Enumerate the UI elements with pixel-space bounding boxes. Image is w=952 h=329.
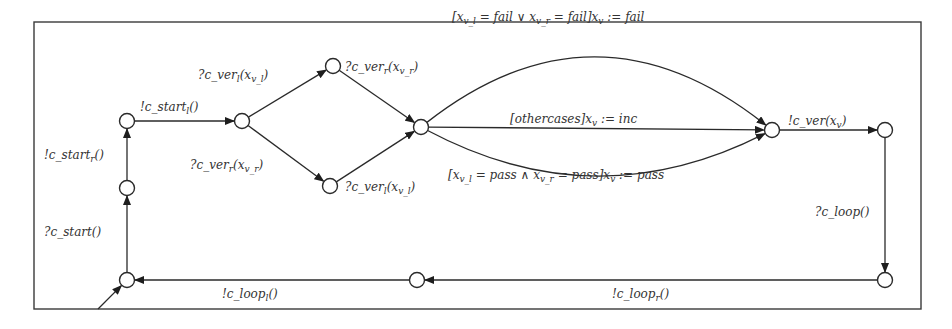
transition-label: !c_loopr() [612, 287, 670, 303]
label-text: !c_start [140, 100, 186, 114]
transition-label: ?c_verl(xv_l) [198, 68, 269, 85]
label-text: ) [257, 158, 263, 172]
transition-label: !c_startr() [44, 148, 104, 164]
label-text: [x [448, 168, 460, 182]
transition-label: !c_ver(xv) [788, 114, 847, 130]
transition-label: ?c_verr(xv_r) [345, 60, 418, 77]
fork-location [235, 114, 250, 129]
start-received-location [120, 181, 135, 196]
label-text: ?c_ver [345, 60, 385, 74]
transition-edge-n3-n5 [339, 70, 414, 122]
label-text: ) [263, 68, 269, 82]
label-text: !c_start [44, 148, 90, 162]
label-text: [x [452, 10, 464, 24]
label-subscript: v_l [463, 16, 476, 27]
label-subscript: v_r [400, 66, 415, 77]
label-subscript: v_l [398, 186, 411, 197]
transition-label: ?c_verr(xv_r) [190, 158, 263, 175]
ver-sent-location [878, 123, 893, 138]
start-left-location [120, 114, 135, 129]
label-text: [othercases]x [510, 112, 592, 126]
label-text: = fail ∨ x [476, 10, 536, 24]
label-subscript: v_r [245, 164, 260, 175]
label-text: ?c_loop() [815, 205, 870, 219]
join-location [414, 120, 429, 135]
label-text: () [660, 287, 670, 301]
label-text: (x [388, 60, 400, 74]
label-text: := pass [615, 168, 664, 182]
right-verified-location [323, 179, 338, 194]
transition-edge-n2-n4 [248, 125, 324, 181]
label-text: () [268, 287, 278, 301]
label-text: ?c_start() [44, 225, 102, 239]
loop-right-location [410, 273, 425, 288]
transition-label: ?c_verl(xv_l) [345, 180, 416, 197]
label-text: = fail]x [550, 10, 599, 24]
label-text: () [189, 100, 199, 114]
label-text: (x [240, 68, 252, 82]
loop-received-location [878, 273, 893, 288]
label-text: () [95, 148, 105, 162]
initial-arrow [98, 286, 121, 309]
label-text: (x [233, 158, 245, 172]
diagram-frame [34, 22, 921, 309]
label-text: ) [841, 114, 847, 128]
label-text: ?c_ver [345, 180, 385, 194]
label-text: ?c_ver [190, 158, 230, 172]
automaton-diagram: ?c_start()!c_startr()!c_startl()?c_verl(… [0, 0, 952, 329]
label-text: = pass]x [554, 168, 611, 182]
label-text: = pass ∧ x [472, 168, 540, 182]
label-text: := inc [597, 112, 637, 126]
label-subscript: v_l [459, 174, 472, 185]
verdict-location [765, 123, 780, 138]
transition-label: ?c_loop() [815, 205, 870, 219]
transition-edge-n4-n5 [336, 131, 414, 182]
transition-label: [xv_l = pass ∧ xv_r = pass]xv := pass [448, 168, 664, 185]
label-text: ?c_ver [198, 68, 238, 82]
label-text: (x [387, 180, 399, 194]
label-text: !c_loop [222, 287, 266, 301]
initial-location [120, 273, 135, 288]
label-subscript: v_l [251, 74, 264, 85]
transition-label: [othercases]xv := inc [510, 112, 637, 128]
transition-label: !c_startl() [140, 100, 199, 116]
left-verified-location [326, 59, 341, 74]
label-subscript: v_r [540, 174, 555, 185]
label-text: ) [410, 180, 416, 194]
transition-label: [xv_l = fail ∨ xv_r = fail]xv := fail [452, 10, 645, 27]
transition-label: ?c_start() [44, 225, 102, 239]
label-text: !c_ver(x [788, 114, 837, 128]
transition-label: !c_loopl() [222, 287, 278, 303]
label-text: !c_loop [612, 287, 656, 301]
label-subscript: v_r [536, 16, 551, 27]
label-text: := fail [603, 10, 644, 24]
label-text: ) [412, 60, 418, 74]
